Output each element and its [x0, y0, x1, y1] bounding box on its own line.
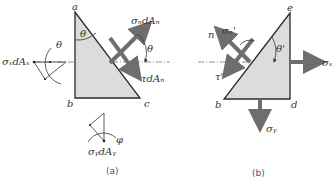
sigma-n-prime-label: σₙ': [222, 25, 236, 36]
theta-prime-label: θ': [276, 43, 285, 54]
tau-dA-n-label: τdAₙ: [141, 73, 164, 84]
sigma-x-dA-x-label: σₓdAₓ: [2, 56, 30, 67]
figure-a: θ θ σₙdAₙ τdAₙ a b c σₓdAₓ θ φ σ: [2, 1, 170, 176]
vertex-d-label: d: [291, 99, 297, 110]
theta-arc-right: [137, 34, 147, 62]
vertex-b-label: b: [215, 99, 221, 110]
vertex-a-label: a: [72, 1, 78, 12]
phi-label: φ: [116, 134, 123, 145]
vertex-b-label: b: [67, 98, 73, 109]
sigma-y-label: σᵧ: [266, 123, 277, 134]
theta-left-label: θ: [56, 39, 62, 50]
sigma-x-force-triangle: [33, 48, 66, 84]
vertex-e-label: e: [287, 2, 293, 13]
theta-right-label: θ: [147, 43, 153, 54]
tau-prime-label: τ': [215, 71, 223, 82]
vertex-c-label: c: [144, 98, 150, 109]
theta-top-label: θ: [80, 28, 86, 39]
sigma-x-label: σₓ: [322, 57, 333, 68]
sigma-n-dA-n-label: σₙdAₙ: [131, 15, 160, 26]
stress-diagram: θ θ σₙdAₙ τdAₙ a b c σₓdAₓ θ φ σ: [0, 0, 336, 188]
caption-a: (a): [106, 166, 119, 176]
figure-b: σₓ σᵧ θ' n σₙ' τ' e b d (b): [198, 2, 333, 178]
sigma-y-force-triangle: [88, 113, 116, 142]
sigma-y-dA-y-label: σᵧdAᵧ: [88, 146, 116, 157]
caption-b: (b): [252, 168, 265, 178]
n-label: n: [208, 29, 214, 40]
